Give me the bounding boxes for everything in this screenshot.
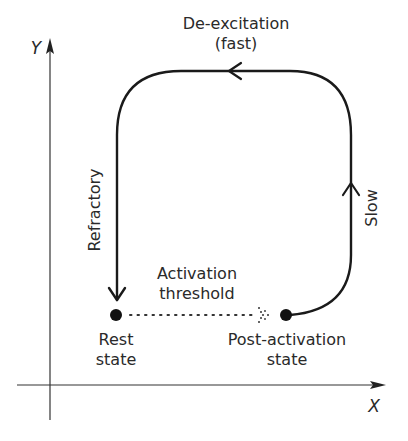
deexcitation-label-line1: De-excitation <box>174 14 298 34</box>
activation-threshold-line1: Activation <box>142 264 252 284</box>
y-axis <box>46 38 54 420</box>
rest-state-label: Rest state <box>86 330 146 370</box>
rest-state-line2: state <box>86 350 146 370</box>
rest-state-line1: Rest <box>86 330 146 350</box>
x-axis <box>17 381 386 389</box>
cycle-diagram <box>0 0 408 441</box>
post-activation-state-line2: state <box>212 350 362 370</box>
x-axis-label: X <box>364 396 384 416</box>
post-activation-state-line1: Post-activation <box>212 330 362 350</box>
post-activation-state-label: Post-activation state <box>212 330 362 370</box>
post-activation-state-dot <box>280 309 292 321</box>
activation-threshold-line2: threshold <box>142 284 252 304</box>
deexcitation-label: De-excitation (fast) <box>174 14 298 54</box>
rest-state-dot <box>110 309 122 321</box>
slow-label: Slow <box>362 186 382 230</box>
refractory-label: Refractory <box>85 165 105 255</box>
threshold-line <box>130 307 269 323</box>
y-axis-label: Y <box>28 38 44 58</box>
deexcitation-label-line2: (fast) <box>174 34 298 54</box>
activation-threshold-label: Activation threshold <box>142 264 252 304</box>
